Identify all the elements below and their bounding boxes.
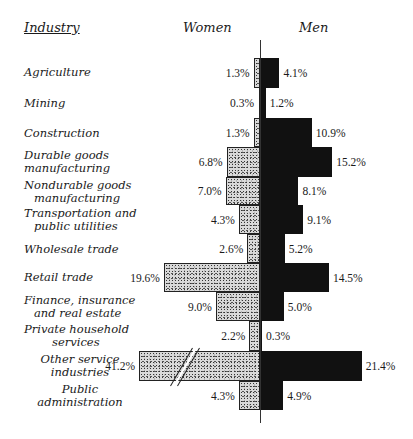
men-value: 4.1% [283, 67, 307, 80]
men-value: 1.2% [270, 97, 294, 110]
men-bar [260, 292, 284, 321]
industry-label: Construction [24, 127, 144, 140]
women-value: 1.3% [210, 127, 250, 140]
industry-label: Publicadministration [24, 383, 136, 409]
women-bar [226, 177, 260, 205]
men-bar [260, 263, 329, 292]
women-value: 6.8% [183, 156, 223, 169]
women-value: 19.6% [120, 272, 160, 285]
women-value: 7.0% [182, 185, 222, 198]
industry-label-line: manufacturing [24, 192, 144, 205]
industry-label: Durable goodsmanufacturing [24, 149, 144, 175]
women-bar [247, 234, 260, 263]
men-column-header: Men [299, 20, 328, 35]
women-bar [139, 351, 260, 381]
industry-label: Wholesale trade [24, 243, 144, 256]
women-bar [239, 205, 260, 234]
women-value: 9.0% [172, 301, 212, 314]
women-bar [239, 381, 260, 410]
women-value: 4.3% [195, 390, 235, 403]
industry-label-line: public utilities [24, 220, 144, 233]
women-bar [227, 147, 260, 177]
men-value: 8.1% [302, 185, 326, 198]
men-value: 0.3% [266, 330, 290, 343]
men-value: 4.9% [287, 390, 311, 403]
men-bar [260, 118, 312, 147]
men-bar [260, 177, 298, 205]
women-bar [216, 292, 260, 321]
men-bar [260, 381, 283, 410]
industry-label-line: Agriculture [24, 66, 144, 79]
women-bar [249, 321, 260, 351]
women-bar [164, 263, 260, 292]
men-bar [260, 147, 332, 177]
men-bar [260, 351, 362, 381]
industry-label: Finance, insuranceand real estate [24, 294, 144, 320]
women-column-header: Women [183, 20, 232, 35]
industry-label-line: Wholesale trade [24, 243, 144, 256]
men-bar [260, 58, 279, 88]
men-value: 10.9% [316, 127, 346, 140]
industry-label-line: services [24, 336, 144, 349]
men-value: 15.2% [336, 156, 366, 169]
women-value: 2.2% [205, 330, 245, 343]
industry-label-line: Mining [24, 97, 144, 110]
men-value: 9.1% [307, 214, 331, 227]
men-value: 21.4% [366, 360, 396, 373]
industry-label-line: administration [24, 396, 136, 409]
women-value: 0.3% [214, 97, 254, 110]
industry-label-line: Construction [24, 127, 144, 140]
industry-label: Nondurable goodsmanufacturing [24, 179, 144, 205]
industry-label: Mining [24, 97, 144, 110]
women-value: 4.3% [195, 214, 235, 227]
industry-label-line: and real estate [24, 307, 144, 320]
women-value: 1.3% [210, 67, 250, 80]
industry-column-header: Industry [24, 20, 80, 35]
men-value: 5.0% [288, 301, 312, 314]
center-axis [260, 40, 261, 423]
industry-label: Transportation andpublic utilities [24, 207, 144, 233]
men-value: 14.5% [333, 272, 363, 285]
industry-label-line: manufacturing [24, 162, 144, 175]
industry-label: Agriculture [24, 66, 144, 79]
industry-label: Private householdservices [24, 323, 144, 349]
women-value: 41.2% [95, 360, 135, 373]
women-value: 2.6% [203, 243, 243, 256]
men-bar [260, 234, 285, 263]
men-bar [260, 205, 303, 234]
men-value: 5.2% [289, 243, 313, 256]
